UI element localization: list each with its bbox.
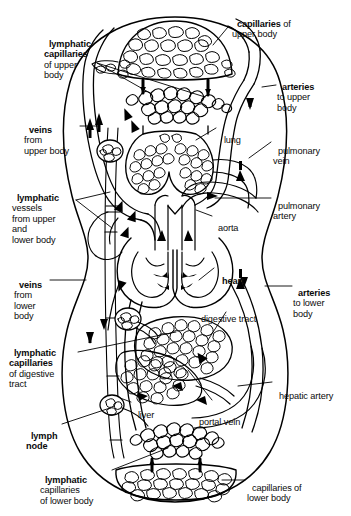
label-hepatic-artery: hepatic artery [274,380,333,401]
body-outline [62,17,288,502]
label-bold: veins [19,280,42,290]
label-lymphatic-vessels-upper-lower-body: lymphatic vessels from upper and lower b… [12,182,59,246]
label-bold: lymphatic [45,475,87,485]
label-aorta: aorta [213,212,238,233]
label-veins-from-upper-body: veins from upper body [24,114,69,156]
label-pulmonary-vein: pulmonary vein [273,135,320,167]
label-pulmonary-artery: pulmonary artery [273,190,320,222]
label-bold: arteries [282,82,314,92]
capillary-bed-upper-body [92,21,235,80]
label-rest: portal vein [199,417,240,427]
label-capillaries-of-lower-body: capillaries of lower body [247,472,302,504]
capillary-bed-lower-body [116,464,236,502]
label-rest: hepatic artery [279,391,333,401]
label-lymphatic-capillaries-upper-body: lymphatic capillaries of upper body [44,28,91,81]
label-rest: lung [224,135,241,145]
label-arteries-to-upper-body: arteries to upper body [277,71,314,113]
label-bold: capillaries [237,19,281,29]
label-liver: liver [133,399,154,420]
label-bold: arteries [298,288,330,298]
label-rest: capillaries of lower body [40,485,93,506]
label-veins-from-lower-body: veins from lower body [14,269,42,322]
label-arteries-to-lower-body: arteries to lower body [293,277,330,319]
label-bold: heart [222,276,244,286]
label-rest: digestive tract [201,314,256,324]
label-capillaries-upper-body: capillaries of upper body [232,8,291,40]
label-lymph-node: lymph node [26,420,57,452]
label-lymphatic-capillaries-digestive-tract: lymphatic capillaries of digestive tract [9,337,56,390]
label-bold: lymph node [26,431,57,452]
label-bold: lymphatic capillaries [9,348,56,369]
label-lymphatic-capillaries-lower-body: lymphatic capillaries of lower body [40,464,93,506]
digestive-tract [135,317,233,381]
label-heart: heart [217,265,244,286]
label-rest: of digestive tract [9,369,54,390]
label-rest: capillaries of lower body [247,483,302,504]
label-rest: to upper body [277,92,310,113]
label-rest: to lower body [293,298,324,319]
lymph-node-upper [97,140,123,162]
lung [126,131,214,194]
leader-lines [50,27,292,480]
label-rest: from upper body [24,135,69,156]
label-rest: pulmonary vein [273,146,320,167]
label-portal-vein: portal vein [194,406,240,427]
label-rest: pulmonary artery [273,201,320,222]
pulmonary-vein [213,159,257,208]
label-rest: of upper body [44,60,77,81]
label-digestive-tract: digestive tract [196,303,256,324]
label-rest: vessels from upper and lower body [12,203,55,245]
label-rest: from lower body [14,290,35,321]
label-bold: veins [29,125,52,135]
label-rest: liver [138,410,154,420]
label-bold: lymphatic [17,193,59,203]
label-bold: lymphatic capillaries [44,39,91,60]
label-rest: aorta [218,223,238,233]
label-lung: lung [219,124,241,145]
